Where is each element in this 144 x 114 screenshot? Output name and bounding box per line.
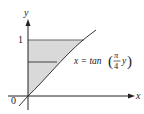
y-axis-arrow-icon [26, 19, 31, 26]
x-axis-label: x [135, 90, 141, 101]
origin-label: 0 [11, 95, 16, 106]
equation-open-paren: ( [108, 53, 113, 70]
y-axis-label: y [23, 7, 29, 18]
equation-close-paren: ) [127, 53, 132, 70]
equation-lhs: x = tan [73, 56, 102, 66]
equation-frac-den: 4 [114, 61, 119, 71]
y-tick-label-1: 1 [18, 34, 23, 45]
equation-frac-num: π [114, 50, 119, 60]
diagram-canvas: y x 0 1 x = tan ( π 4 y ) [0, 0, 144, 114]
x-axis-arrow-icon [128, 94, 135, 99]
